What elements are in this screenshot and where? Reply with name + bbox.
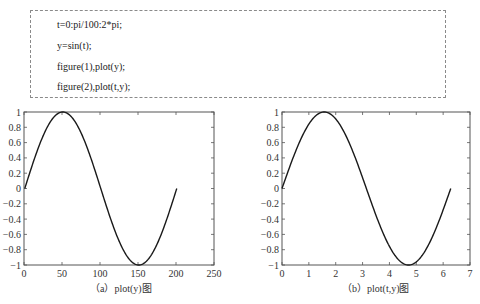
y-tick-label: −0.8 xyxy=(3,244,21,255)
y-tick-label: −0.4 xyxy=(3,214,21,225)
y-tick-label: −0.6 xyxy=(3,229,21,240)
x-tick-label: 7 xyxy=(468,268,473,279)
y-tick-label: 1 xyxy=(274,107,279,118)
y-tick-label: 0.6 xyxy=(9,137,22,148)
x-tick-label: 50 xyxy=(57,268,67,279)
y-tick-label: 0.4 xyxy=(267,152,280,163)
y-tick-label: −0.8 xyxy=(261,244,279,255)
y-tick-label: −1 xyxy=(10,260,21,271)
x-tick-label: 150 xyxy=(131,268,146,279)
y-tick-label: 0.6 xyxy=(267,137,280,148)
x-tick-label: 3 xyxy=(360,268,365,279)
x-tick-label: 4 xyxy=(387,268,392,279)
x-tick-label: 6 xyxy=(441,268,446,279)
sine-curve xyxy=(282,112,451,265)
y-tick-label: 0 xyxy=(274,183,279,194)
x-tick-label: 5 xyxy=(414,268,419,279)
caption-left: （a）plot(y)图 xyxy=(90,280,152,295)
y-tick-label: 0 xyxy=(16,183,21,194)
x-tick-label: 0 xyxy=(280,268,285,279)
caption-right: （b）plot(t,y)图 xyxy=(342,280,410,295)
x-tick-label: 250 xyxy=(207,268,222,279)
plots-canvas: 050100150200250−1−0.8−0.6−0.4−0.200.20.4… xyxy=(0,0,480,304)
y-tick-label: 0.2 xyxy=(267,168,280,179)
y-tick-label: −0.2 xyxy=(3,198,21,209)
y-tick-label: 0.4 xyxy=(9,152,22,163)
axes-box xyxy=(282,112,470,265)
y-tick-label: 0.8 xyxy=(9,122,22,133)
x-tick-label: 2 xyxy=(333,268,338,279)
y-tick-label: 0.8 xyxy=(267,122,280,133)
plot-y-by-index: 050100150200250−1−0.8−0.6−0.4−0.200.20.4… xyxy=(3,107,222,280)
x-tick-label: 100 xyxy=(93,268,108,279)
y-tick-label: 0.2 xyxy=(9,168,22,179)
x-tick-label: 200 xyxy=(169,268,184,279)
sine-curve xyxy=(25,112,177,265)
plot-t-vs-y: 01234567−1−0.8−0.6−0.4−0.200.20.40.60.81 xyxy=(261,107,473,280)
y-tick-label: −0.2 xyxy=(261,198,279,209)
y-tick-label: −0.6 xyxy=(261,229,279,240)
y-tick-label: −0.4 xyxy=(261,214,279,225)
y-tick-label: 1 xyxy=(16,107,21,118)
y-tick-label: −1 xyxy=(268,260,279,271)
x-tick-label: 0 xyxy=(22,268,27,279)
x-tick-label: 1 xyxy=(306,268,311,279)
